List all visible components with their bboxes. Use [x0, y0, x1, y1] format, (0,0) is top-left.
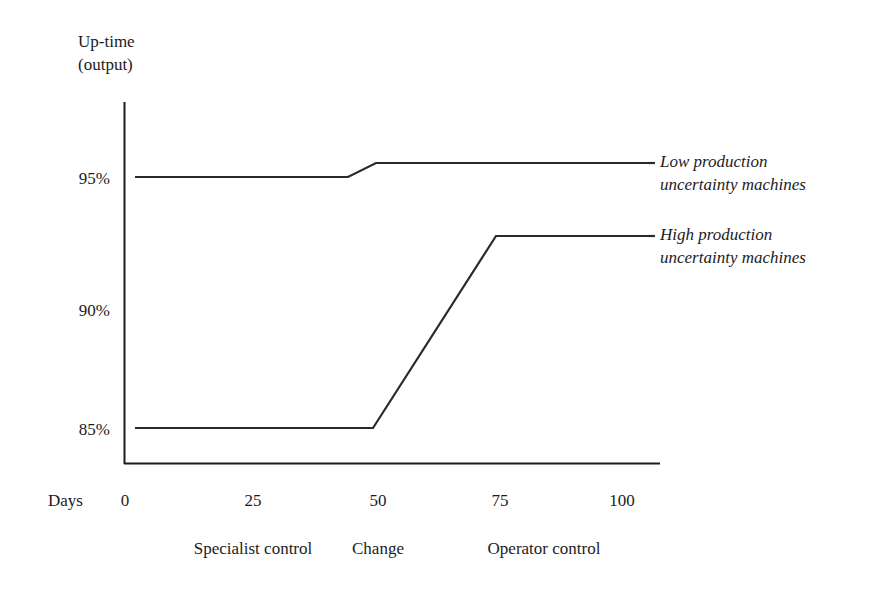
x-tick-label-50: 50 [338, 491, 418, 511]
chart-figure: Up-time (output) 95% 90% 85% Low product… [0, 0, 878, 594]
series-line-low-production-uncertainty [135, 163, 648, 177]
x-tick-label-0: 0 [85, 491, 165, 511]
series-label-low-production-uncertainty-line2: uncertainty machines [660, 173, 806, 196]
x-axis-title: Days [48, 491, 83, 511]
x-tick-label-25: 25 [213, 491, 293, 511]
x-tick-label-75: 75 [460, 491, 540, 511]
series-line-high-production-uncertainty [135, 236, 648, 428]
series-label-high-production-uncertainty-line2: uncertainty machines [660, 246, 806, 269]
x-tick-label-100: 100 [582, 491, 662, 511]
annotation-operator-control: Operator control [424, 539, 664, 559]
series-label-high-production-uncertainty-line1: High production [660, 223, 772, 246]
series-label-low-production-uncertainty-line1: Low production [660, 150, 768, 173]
